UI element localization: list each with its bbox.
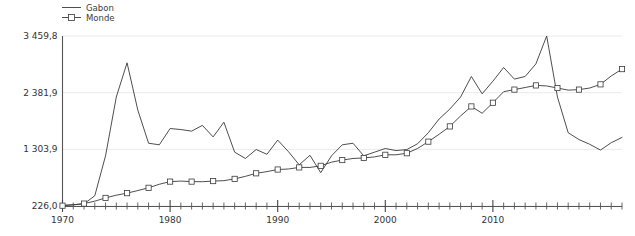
x-tick-label: 1980 — [159, 215, 182, 225]
data-point-marker — [60, 203, 65, 208]
x-tick-label: 1990 — [266, 215, 289, 225]
data-point-marker — [533, 83, 538, 88]
data-point-marker — [598, 82, 603, 87]
data-point-marker — [232, 176, 237, 181]
data-point-marker — [146, 185, 151, 190]
data-point-marker — [361, 155, 366, 160]
data-point-marker — [555, 85, 560, 90]
chart-canvas: 226,01 303,92 381,93 459,8 1970198019902… — [0, 0, 635, 236]
series-group — [60, 36, 625, 208]
data-point-marker — [168, 179, 173, 184]
series-line-gabon — [63, 36, 623, 205]
data-point-marker — [189, 179, 194, 184]
data-point-marker — [490, 100, 495, 105]
data-point-marker — [275, 167, 280, 172]
data-point-marker — [81, 201, 86, 206]
data-point-marker — [404, 151, 409, 156]
data-point-marker — [426, 139, 431, 144]
x-tick-label: 2000 — [374, 215, 397, 225]
y-tick-label: 3 459,8 — [23, 31, 58, 41]
x-tick-labels: 19701980199020002010 — [51, 215, 505, 225]
data-point-marker — [297, 165, 302, 170]
y-tick-label: 226,0 — [32, 201, 58, 211]
data-point-marker — [340, 157, 345, 162]
x-tick-label: 1970 — [51, 215, 74, 225]
x-tick-label: 2010 — [481, 215, 504, 225]
legend-label-monde: Monde — [86, 13, 115, 23]
data-point-marker — [469, 104, 474, 109]
data-point-marker — [383, 152, 388, 157]
x-axis-group — [63, 200, 623, 212]
data-point-marker — [619, 67, 624, 72]
data-point-marker — [447, 124, 452, 129]
gridlines-group — [63, 36, 623, 206]
data-point-marker — [576, 87, 581, 92]
legend-label-gabon: Gabon — [86, 3, 114, 13]
chart-figure: 226,01 303,92 381,93 459,8 1970198019902… — [0, 0, 635, 236]
series-markers-monde — [60, 67, 625, 209]
data-point-marker — [103, 195, 108, 200]
y-tick-label: 1 303,9 — [23, 144, 58, 154]
data-point-marker — [211, 178, 216, 183]
y-tick-label: 2 381,9 — [23, 88, 58, 98]
legend-marker-monde — [69, 15, 75, 21]
data-point-marker — [124, 191, 129, 196]
legend: Gabon Monde — [62, 3, 115, 23]
y-tick-labels: 226,01 303,92 381,93 459,8 — [23, 31, 58, 211]
data-point-marker — [254, 171, 259, 176]
data-point-marker — [318, 163, 323, 168]
data-point-marker — [512, 87, 517, 92]
